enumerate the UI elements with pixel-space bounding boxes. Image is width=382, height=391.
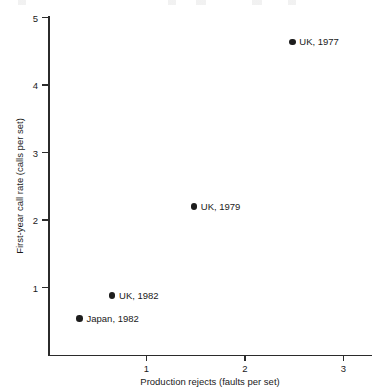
x-tick-label: 1 (137, 363, 157, 374)
x-tick-mark (244, 355, 246, 361)
data-point-label: UK, 1982 (119, 290, 159, 301)
data-point-marker (191, 203, 198, 210)
y-axis-line (48, 16, 50, 356)
x-tick-mark (343, 355, 345, 361)
x-tick-mark (146, 355, 148, 361)
y-tick-mark (42, 17, 48, 19)
y-axis-title: First-year call rate (calls per set) (14, 16, 25, 356)
data-point-marker (76, 315, 83, 322)
scatter-chart: 12345 123 First-year call rate (calls pe… (0, 0, 382, 391)
x-axis-title: Production rejects (faults per set) (48, 376, 372, 387)
y-tick-mark (42, 287, 48, 289)
y-tick-mark (42, 152, 48, 154)
x-axis-line (48, 355, 372, 357)
data-point-marker (109, 292, 116, 299)
x-tick-label: 2 (235, 363, 255, 374)
data-point-marker (289, 39, 296, 46)
data-point-label: Japan, 1982 (87, 313, 139, 324)
y-tick-mark (42, 219, 48, 221)
data-point-label: UK, 1979 (201, 201, 241, 212)
data-point-label: UK, 1977 (299, 36, 339, 47)
scan-artifact (0, 0, 382, 5)
x-tick-label: 3 (334, 363, 354, 374)
y-tick-mark (42, 84, 48, 86)
